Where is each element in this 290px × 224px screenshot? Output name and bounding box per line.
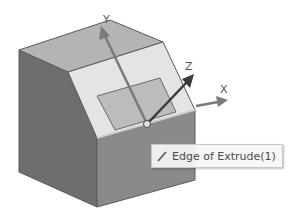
graphics-viewport[interactable]: Y Z X Edge of Extrude(1) <box>0 0 290 224</box>
x-axis-label: X <box>220 84 228 95</box>
z-axis-label: Z <box>185 61 193 72</box>
edge-icon <box>156 150 168 162</box>
x-axis-arrow[interactable] <box>196 96 228 107</box>
tooltip-text: Edge of Extrude(1) <box>172 150 276 163</box>
3d-model-scene[interactable] <box>0 0 290 224</box>
hover-tooltip: Edge of Extrude(1) <box>151 144 283 168</box>
y-axis-label: Y <box>103 14 110 25</box>
origin-point[interactable] <box>144 121 151 128</box>
